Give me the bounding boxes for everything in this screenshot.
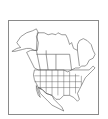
state-boundaries — [34, 70, 81, 95]
province-boundaries — [36, 50, 79, 70]
alaska-outline — [12, 29, 38, 51]
north-america-outline-map — [9, 21, 98, 114]
map-frame — [8, 20, 99, 115]
